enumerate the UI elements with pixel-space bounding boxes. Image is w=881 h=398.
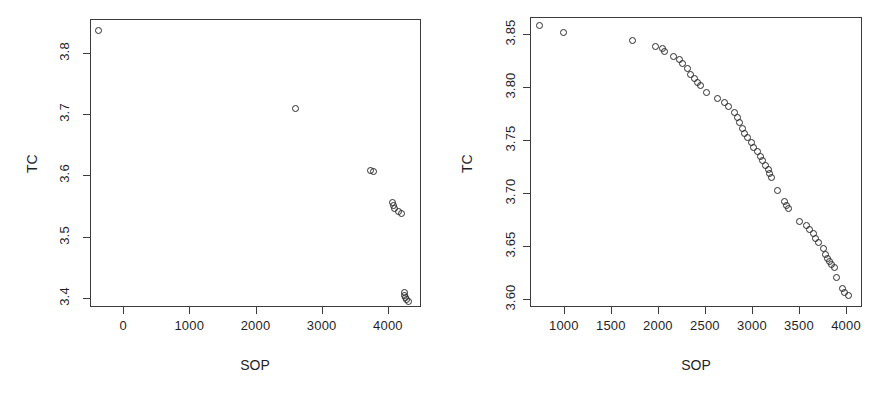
x-tick-label: 4000	[831, 318, 861, 333]
y-axis-title-left-text: TC	[24, 153, 40, 173]
data-point	[292, 105, 299, 112]
x-tick-mark	[123, 307, 124, 314]
x-tick-mark	[189, 307, 190, 314]
y-tick-mark	[83, 114, 90, 115]
data-point	[845, 292, 852, 299]
y-tick-label: 3.60	[496, 290, 524, 308]
data-point	[95, 27, 102, 34]
data-point	[652, 43, 659, 50]
x-tick-mark	[256, 307, 257, 314]
scatter-panel-left: 010002000300040003.43.53.63.73.8 SOP TC	[0, 0, 440, 398]
y-tick-label: 3.75	[496, 131, 524, 149]
x-tick-label: 0	[119, 318, 126, 333]
x-tick-label: 3000	[307, 318, 337, 333]
data-point	[398, 210, 405, 217]
y-tick-label-text: 3.8	[57, 37, 72, 65]
y-tick-mark	[83, 237, 90, 238]
x-tick-mark	[846, 307, 847, 314]
y-tick-mark	[523, 34, 530, 35]
plot-area-right	[531, 18, 861, 306]
y-tick-label-text: 3.70	[503, 177, 518, 205]
plot-frame-left	[90, 19, 421, 307]
data-point	[703, 89, 710, 96]
figure-root: 010002000300040003.43.53.63.73.8 SOP TC …	[0, 0, 881, 398]
data-point	[697, 82, 704, 89]
data-point	[714, 95, 721, 102]
x-tick-mark	[658, 307, 659, 314]
data-point	[785, 205, 792, 212]
data-point	[405, 298, 412, 305]
data-point	[768, 174, 775, 181]
y-tick-label: 3.85	[496, 25, 524, 43]
data-point	[560, 29, 567, 36]
y-axis-title-right: TC	[457, 155, 477, 175]
x-tick-label: 2500	[690, 318, 720, 333]
x-tick-mark	[752, 307, 753, 314]
plot-area-left	[91, 20, 420, 306]
data-point	[536, 22, 543, 29]
y-tick-mark	[83, 298, 90, 299]
x-tick-mark	[799, 307, 800, 314]
y-tick-label-text: 3.65	[503, 230, 518, 258]
data-point	[831, 264, 838, 271]
y-tick-label-text: 3.60	[503, 283, 518, 311]
x-tick-mark	[611, 307, 612, 314]
y-tick-mark	[523, 193, 530, 194]
y-tick-label: 3.7	[50, 105, 78, 123]
data-point	[370, 168, 377, 175]
y-axis-title-right-text: TC	[459, 153, 475, 173]
y-tick-mark	[523, 87, 530, 88]
x-tick-label: 4000	[373, 318, 403, 333]
y-tick-label-text: 3.75	[503, 124, 518, 152]
data-point	[774, 187, 781, 194]
x-tick-label: 1000	[174, 318, 204, 333]
y-tick-label-text: 3.7	[57, 98, 72, 126]
x-tick-label: 1000	[549, 318, 579, 333]
x-axis-title-right: SOP	[681, 357, 711, 373]
y-tick-mark	[83, 175, 90, 176]
y-tick-label-text: 3.4	[57, 282, 72, 310]
x-tick-mark	[564, 307, 565, 314]
y-tick-label-text: 3.85	[503, 18, 518, 46]
y-tick-label: 3.65	[496, 237, 524, 255]
data-point	[629, 37, 636, 44]
y-tick-label-text: 3.6	[57, 160, 72, 188]
y-tick-mark	[523, 299, 530, 300]
data-point	[833, 274, 840, 281]
y-tick-label: 3.8	[50, 44, 78, 62]
x-tick-mark	[705, 307, 706, 314]
data-point	[661, 48, 668, 55]
x-tick-label: 3000	[737, 318, 767, 333]
x-tick-label: 2000	[241, 318, 271, 333]
y-tick-label: 3.70	[496, 184, 524, 202]
y-tick-label: 3.6	[50, 166, 78, 184]
x-tick-label: 1500	[596, 318, 626, 333]
y-tick-label-text: 3.80	[503, 71, 518, 99]
x-tick-label: 3500	[784, 318, 814, 333]
y-tick-mark	[83, 53, 90, 54]
y-tick-label-text: 3.5	[57, 221, 72, 249]
scatter-panel-right: 10001500200025003000350040003.603.653.70…	[441, 0, 881, 398]
x-tick-mark	[322, 307, 323, 314]
x-tick-label: 2000	[643, 318, 673, 333]
x-tick-mark	[388, 307, 389, 314]
plot-frame-right	[530, 17, 862, 307]
y-tick-label: 3.5	[50, 228, 78, 246]
x-axis-title-left: SOP	[240, 357, 270, 373]
y-axis-title-left: TC	[22, 155, 42, 175]
y-tick-mark	[523, 140, 530, 141]
y-tick-label: 3.4	[50, 289, 78, 307]
y-tick-mark	[523, 246, 530, 247]
y-tick-label: 3.80	[496, 78, 524, 96]
